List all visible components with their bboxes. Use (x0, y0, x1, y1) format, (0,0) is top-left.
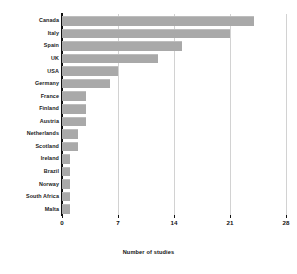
x-tick-mark (62, 215, 63, 218)
category-label: Malta (1, 206, 59, 212)
x-tick-label: 21 (218, 219, 242, 226)
x-axis-title: Number of studies (0, 249, 297, 255)
bar (62, 41, 182, 51)
category-label: Finland (1, 105, 59, 111)
gridline-21 (230, 14, 231, 215)
bar (62, 79, 110, 89)
x-tick-mark (286, 215, 287, 218)
bar (62, 16, 254, 26)
x-tick-label: 7 (106, 219, 130, 226)
gridline-28 (286, 14, 287, 215)
category-label: France (1, 93, 59, 99)
bar (62, 117, 86, 127)
category-label: Spain (1, 42, 59, 48)
plot-area (62, 14, 286, 215)
x-tick-label: 14 (162, 219, 186, 226)
category-label: USA (1, 68, 59, 74)
bar (62, 142, 78, 152)
bar (62, 204, 70, 214)
bar (62, 192, 70, 202)
bar (62, 29, 230, 39)
bar (62, 66, 118, 76)
bar (62, 54, 158, 64)
category-label: Germany (1, 80, 59, 86)
category-axis-labels: CanadaItalySpainUKUSAGermanyFranceFinlan… (0, 14, 59, 215)
x-tick-label: 28 (274, 219, 297, 226)
bar (62, 154, 70, 164)
category-label: Norway (1, 181, 59, 187)
x-tick-mark (118, 215, 119, 218)
category-label: Netherlands (1, 130, 59, 136)
bar (62, 167, 70, 177)
category-label: South Africa (1, 193, 59, 199)
x-tick-mark (174, 215, 175, 218)
bar (62, 91, 86, 101)
category-label: Italy (1, 30, 59, 36)
bar-chart: CanadaItalySpainUKUSAGermanyFranceFinlan… (0, 0, 297, 274)
x-tick-mark (230, 215, 231, 218)
bar (62, 104, 86, 114)
bar (62, 129, 78, 139)
category-label: UK (1, 55, 59, 61)
category-label: Brazil (1, 168, 59, 174)
category-label: Canada (1, 17, 59, 23)
x-tick-label: 0 (50, 219, 74, 226)
category-label: Austria (1, 118, 59, 124)
category-label: Scotland (1, 143, 59, 149)
category-label: Ireland (1, 155, 59, 161)
bar (62, 179, 70, 189)
